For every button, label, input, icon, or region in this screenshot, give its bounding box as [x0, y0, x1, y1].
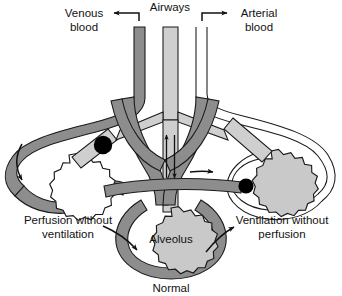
right-unit-label-line1: Ventilation without: [236, 214, 330, 226]
center-unit-label: Normal: [152, 282, 189, 294]
airways-label: Airways: [150, 1, 191, 13]
diagram-canvas: Airways Venous blood Arterial blood Perf…: [0, 0, 342, 296]
arterial-blood-label-line1: Arterial: [241, 7, 277, 19]
arterial-blood-label-line2: blood: [245, 21, 273, 33]
right-unit-label-line2: perfusion: [258, 228, 305, 240]
central-airway-trunk: [163, 27, 178, 120]
shunt-flow-arrow-right: [190, 171, 213, 172]
venous-blood-label-line1: Venous: [65, 7, 104, 19]
center-alveolus-label: Alveolus: [149, 233, 193, 245]
vascular-obstruction-plug: [238, 178, 253, 193]
venous-blood-label-line2: blood: [70, 21, 98, 33]
left-unit-label-line1: Perfusion without: [24, 214, 113, 226]
left-unit-label-line2: ventilation: [42, 228, 94, 240]
ventilation-perfusion-diagram: Airways Venous blood Arterial blood Perf…: [0, 0, 342, 296]
airway-obstruction-plug: [94, 136, 112, 154]
